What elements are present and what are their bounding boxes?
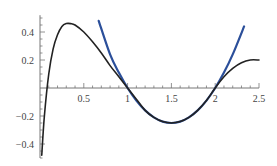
x-tick-label: 1.5: [165, 93, 178, 104]
axes: [40, 15, 259, 158]
x-tick-label: 2.5: [253, 93, 266, 104]
y-tick-label: −0.2: [16, 111, 34, 122]
y-tick-label: 0.4: [22, 27, 35, 38]
y-tick-label: −0.4: [16, 139, 34, 150]
x-tick-label: 0.5: [78, 93, 91, 104]
y-tick-label: 0.2: [22, 55, 35, 66]
x-tick-label: 1: [125, 93, 130, 104]
quadratic-approximation-curve: [99, 21, 244, 123]
function-curve: [42, 23, 259, 155]
x-tick-label: 2: [213, 93, 218, 104]
chart: 0.511.522.50.40.2−0.2−0.4: [0, 0, 277, 166]
